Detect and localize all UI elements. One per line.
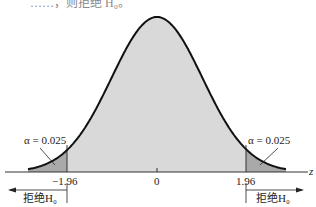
tick-1-96: 1.96 bbox=[236, 176, 255, 187]
axis-z-label: z bbox=[309, 166, 313, 177]
right-alpha-label: α = 0.025 bbox=[248, 135, 290, 146]
tick-zero: 0 bbox=[154, 176, 160, 187]
tick-neg-1-96: −1.96 bbox=[52, 176, 77, 187]
left-reject-label: 拒绝H₀ bbox=[23, 193, 57, 204]
right-reject-label: 拒绝H₀ bbox=[256, 193, 290, 204]
left-alpha-label: α = 0.025 bbox=[24, 135, 66, 146]
